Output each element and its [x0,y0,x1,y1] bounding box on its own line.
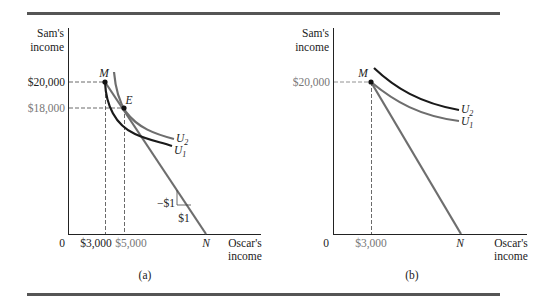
x-label-2: income [494,250,528,262]
point-n-label: N [455,237,465,249]
bottom-rule [27,293,500,296]
y-tick-18000: $18,000 [28,102,66,115]
x-tick-5000: $5,000 [115,237,147,250]
indifference-curve-u2 [374,68,459,110]
point-n-label: N [201,237,211,249]
y-tick-20000: $20,000 [293,76,331,89]
x-label-2: income [228,250,262,262]
caption-a: (a) [139,269,152,282]
slope-rise-label: −$1 [157,197,175,209]
budget-line [105,82,206,234]
top-rule [27,12,500,15]
y-tick-20000: $20,000 [28,76,66,89]
point-e-label: E [124,94,132,106]
point-e [121,105,126,110]
y-label-2: income [30,41,64,53]
x-label-1: Oscar's [494,237,528,249]
y-label-1: Sam's [37,27,65,39]
panel-b: Sam's income $20,000 0 $3,000 N Oscar's … [293,27,529,282]
point-m [368,79,373,84]
origin: 0 [323,237,329,249]
budget-line [371,82,461,234]
indifference-curve-u1 [371,82,459,121]
origin: 0 [59,237,65,249]
indifference-curve-u2 [114,72,174,139]
panel-a: Sam's income $20,000 $18,000 0 $3,000 $5… [28,27,263,282]
x-label-1: Oscar's [228,237,262,249]
point-m-label: M [357,67,369,79]
figure: Sam's income $20,000 $18,000 0 $3,000 $5… [0,0,554,302]
x-tick-3000: $3,000 [80,237,112,250]
x-tick-3000: $3,000 [355,237,387,250]
y-label-2: income [295,41,329,53]
point-m-label: M [98,67,110,79]
caption-b: (b) [405,269,419,282]
slope-run-label: $1 [178,212,190,224]
point-m [102,79,107,84]
y-label-1: Sam's [302,27,330,39]
